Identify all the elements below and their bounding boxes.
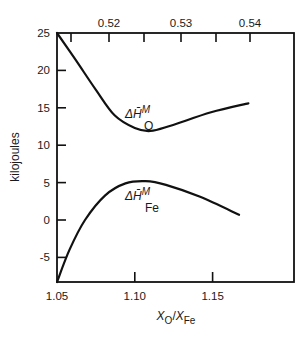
top-tick-label: 0.54: [239, 17, 262, 29]
y-axis-label: kilojoules: [8, 132, 22, 181]
y-tick-label: 5: [44, 177, 50, 189]
curve-delta-h-oxygen: [57, 33, 248, 131]
y-axis: 2520151050-5: [37, 27, 66, 263]
x-axis-top: 0.520.530.54: [71, 17, 262, 42]
chart: 2520151050-5 1.051.101.15 0.520.530.54 Δ…: [0, 0, 304, 342]
y-tick-label: -5: [40, 251, 50, 263]
y-tick-label: 10: [37, 139, 50, 151]
y-tick-label: 15: [37, 102, 50, 114]
x-tick-label: 1.05: [46, 290, 68, 302]
top-tick-label: 0.53: [170, 17, 192, 29]
top-tick-label: 0.52: [98, 17, 120, 29]
plot-border: [57, 33, 294, 282]
y-tick-label: 20: [37, 64, 50, 76]
label-delta-h-iron-subscript: Fe: [145, 201, 159, 215]
curves: [57, 33, 248, 282]
y-tick-label: 0: [44, 214, 50, 226]
y-tick-label: 25: [37, 27, 50, 39]
curve-labels: ΔH̄MOΔH̄MFe: [124, 104, 159, 215]
x-axis-bottom: 1.051.101.15: [46, 272, 224, 302]
label-delta-h-oxygen-subscript: O: [144, 119, 153, 133]
x-tick-label: 1.10: [124, 290, 146, 302]
x-axis-label: XO/XFe: [156, 309, 196, 326]
x-tick-label: 1.15: [201, 290, 223, 302]
plot-frame: [57, 33, 294, 282]
